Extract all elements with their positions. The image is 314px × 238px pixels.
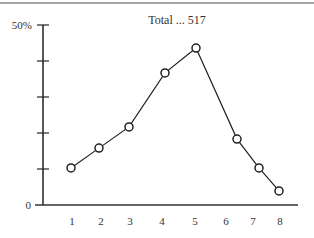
y-tick-label: 0: [26, 199, 32, 211]
data-series: [67, 44, 283, 195]
x-tick-label: 5: [192, 215, 198, 227]
x-tick-label: 4: [159, 215, 165, 227]
x-tick-label: 6: [223, 215, 229, 227]
y-tick-label: 50%: [12, 19, 32, 31]
line-chart: Total ... 517 050% 12345678: [0, 0, 314, 238]
x-tick-label: 3: [127, 215, 133, 227]
data-point-marker: [161, 69, 169, 77]
x-tick-label: 8: [277, 215, 283, 227]
chart-title: Total ... 517: [148, 13, 206, 27]
data-point-marker: [192, 44, 200, 52]
x-axis: 12345678: [35, 205, 298, 227]
x-tick-label: 7: [250, 215, 256, 227]
data-point-marker: [255, 164, 263, 172]
data-point-marker: [125, 123, 133, 131]
y-axis: 050%: [12, 19, 49, 211]
series-line: [71, 48, 279, 191]
data-point-marker: [233, 135, 241, 143]
x-tick-label: 2: [98, 215, 104, 227]
data-point-marker: [95, 144, 103, 152]
data-point-marker: [67, 164, 75, 172]
x-tick-label: 1: [69, 215, 75, 227]
data-point-marker: [275, 187, 283, 195]
